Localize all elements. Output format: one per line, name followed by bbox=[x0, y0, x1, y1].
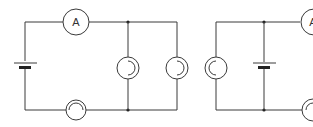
lamp-icon bbox=[166, 57, 188, 79]
lamp-icon bbox=[302, 99, 313, 121]
lamp-icon bbox=[66, 100, 86, 120]
right-circuit: A bbox=[205, 9, 313, 121]
ammeter-icon: A bbox=[301, 9, 313, 35]
battery-icon bbox=[14, 63, 37, 69]
circuit-diagram: A bbox=[0, 0, 313, 127]
ammeter-icon: A bbox=[63, 9, 89, 35]
ammeter-label: A bbox=[309, 16, 313, 28]
lamp-icon bbox=[205, 57, 227, 79]
lamp-icon bbox=[117, 57, 139, 79]
left-circuit: A bbox=[14, 9, 188, 120]
ammeter-label: A bbox=[72, 16, 80, 28]
battery-icon bbox=[253, 63, 276, 69]
